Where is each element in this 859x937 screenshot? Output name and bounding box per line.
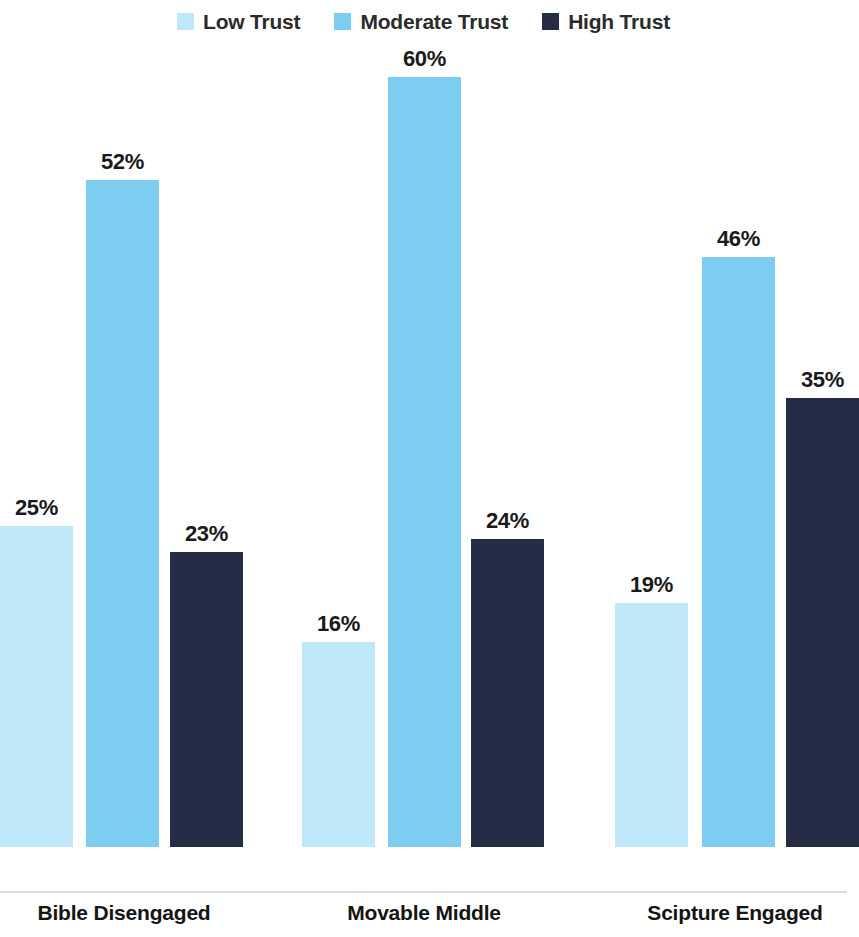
bar-scipture-engaged-high-trust-value-label: 35% [801,369,844,391]
bar-scipture-engaged-moderate-trust: 46% [702,257,775,847]
category-label-movable-middle: Movable Middle [347,901,501,925]
bar-bible-disengaged-low-trust-value-label: 25% [15,497,58,519]
bar-bible-disengaged-moderate-trust: 52% [86,180,159,847]
bar-scipture-engaged-moderate-trust-value-label: 46% [717,228,760,250]
bar-movable-middle-high-trust: 24% [471,539,544,847]
category-label-bible-disengaged: Bible Disengaged [37,901,210,925]
bar-scipture-engaged-low-trust: 19% [615,603,688,847]
bar-bible-disengaged-high-trust-value-label: 23% [185,523,228,545]
category-label-scipture-engaged: Scipture Engaged [647,901,822,925]
bar-movable-middle-low-trust-value-label: 16% [317,613,360,635]
bar-bible-disengaged-low-trust: 25% [0,526,73,847]
bar-bible-disengaged-high-trust: 23% [170,552,243,847]
bar-movable-middle-high-trust-value-label: 24% [486,510,529,532]
bar-bible-disengaged-moderate-trust-value-label: 52% [101,151,144,173]
plot-area: 25%52%23%16%60%24%19%46%35% [0,0,847,892]
bar-scipture-engaged-low-trust-value-label: 19% [630,574,673,596]
category-axis-labels: Bible DisengagedMovable MiddleScipture E… [0,901,847,937]
bar-scipture-engaged-high-trust: 35% [786,398,859,847]
bar-movable-middle-low-trust: 16% [302,642,375,847]
axis-baseline [0,891,847,893]
bar-movable-middle-moderate-trust-value-label: 60% [403,48,446,70]
bar-movable-middle-moderate-trust: 60% [388,77,461,847]
